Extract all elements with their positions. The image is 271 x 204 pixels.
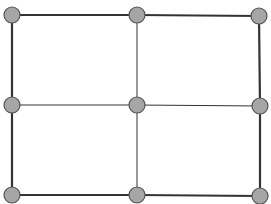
node-n02 bbox=[251, 8, 267, 24]
node-n10 bbox=[4, 97, 20, 113]
node-n21 bbox=[129, 187, 145, 203]
edge-n01-n02 bbox=[137, 15, 259, 16]
edge-n21-n22 bbox=[137, 195, 260, 196]
edge-n02-n12 bbox=[259, 16, 260, 106]
node-n01 bbox=[129, 7, 145, 23]
node-n20 bbox=[4, 187, 20, 203]
grid-graph-diagram bbox=[0, 0, 271, 204]
node-n12 bbox=[252, 98, 268, 114]
node-n11 bbox=[129, 97, 145, 113]
node-n00 bbox=[4, 7, 20, 23]
node-n22 bbox=[252, 188, 268, 204]
edge-n11-n12 bbox=[137, 105, 260, 106]
